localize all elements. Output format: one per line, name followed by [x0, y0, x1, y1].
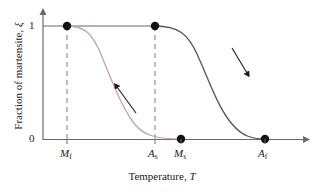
- x-tick-label-as-sub: s: [155, 152, 158, 161]
- x-tick-label-ms: Ms: [174, 147, 186, 161]
- y-tick-label-1: 1: [29, 19, 35, 31]
- heating-curve: [67, 26, 181, 139]
- y-axis-title: Fraction of martensite, ξ: [12, 12, 24, 140]
- x-tick-label-ms-base: M: [174, 147, 183, 159]
- plot-canvas: [0, 0, 324, 192]
- x-tick-label-mf-base: M: [60, 147, 69, 159]
- x-axis-title: Temperature, T: [0, 170, 324, 182]
- x-tick-label-mf: Mf: [60, 147, 72, 161]
- y-axis-title-prefix: Fraction of martensite,: [12, 27, 24, 130]
- cooling-arrow-icon: [232, 48, 247, 73]
- x-tick-label-af: Af: [258, 147, 267, 161]
- x-tick-label-ms-sub: s: [183, 152, 186, 161]
- hysteresis-figure: 1 0 Fraction of martensite, ξ Mf As Ms A…: [0, 0, 324, 192]
- y-tick-label-0: 0: [29, 132, 35, 144]
- x-tick-label-af-base: A: [258, 147, 265, 159]
- y-axis-title-symbol: ξ: [12, 22, 24, 27]
- x-tick-label-mf-sub: f: [69, 152, 72, 161]
- x-axis-title-symbol: T: [189, 170, 195, 182]
- x-tick-label-af-sub: f: [265, 152, 268, 161]
- x-tick-label-as-base: A: [148, 147, 155, 159]
- x-tick-label-as: As: [148, 147, 158, 161]
- marker-mf: [63, 22, 71, 30]
- x-axis-title-prefix: Temperature,: [128, 170, 189, 182]
- cooling-curve: [155, 26, 265, 139]
- marker-as: [151, 22, 159, 30]
